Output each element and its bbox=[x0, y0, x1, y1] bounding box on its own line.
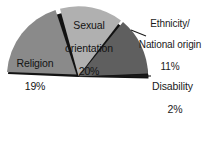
pie-chart-figure: Sexual orientation 20% Religion 19% Ethn… bbox=[0, 0, 208, 153]
pie-label-disability-line1: Disability bbox=[152, 81, 206, 92]
pie-label-religion: Religion 19% bbox=[8, 47, 62, 104]
pie-label-sexual-orientation: Sexual orientation 20% bbox=[58, 9, 120, 88]
pie-label-sexual-orientation-line1: Sexual bbox=[58, 20, 120, 31]
pie-label-religion-line1: Religion bbox=[8, 58, 62, 69]
pie-label-ethnicity-line2: National origin bbox=[132, 40, 208, 51]
pie-label-sexual-orientation-percent: 20% bbox=[58, 66, 120, 77]
pie-label-ethnicity-line1: Ethnicity/ bbox=[132, 19, 208, 30]
pie-label-religion-percent: 19% bbox=[8, 81, 62, 92]
pie-label-disability: Disability 2% bbox=[152, 70, 206, 127]
pie-label-sexual-orientation-line2: orientation bbox=[58, 43, 120, 54]
pie-label-disability-percent: 2% bbox=[152, 104, 198, 115]
